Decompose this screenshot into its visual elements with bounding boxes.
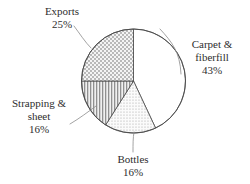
leader-line-bottles — [133, 132, 134, 152]
leader-line-strapping-sheet — [70, 106, 96, 124]
pie-slice-exports[interactable] — [82, 29, 134, 81]
label-strapping-sheet-title-2: sheet — [28, 110, 51, 122]
label-strapping-sheet-title-1: Strapping & — [12, 97, 67, 109]
label-exports-title: Exports — [45, 5, 79, 17]
leader-line-exports — [74, 26, 91, 48]
label-strapping-sheet-value: 16% — [29, 123, 49, 135]
label-carpet-fiberfill-title-1: Carpet & — [192, 38, 233, 50]
label-carpet-fiberfill-value: 43% — [202, 64, 222, 76]
label-bottles-title: Bottles — [117, 153, 148, 165]
pie-chart-svg: Exports 25% Carpet & fiberfill 43% Strap… — [0, 0, 250, 184]
label-exports-value: 25% — [52, 18, 72, 30]
pie-chart-figure: Exports 25% Carpet & fiberfill 43% Strap… — [0, 0, 250, 184]
label-bottles-value: 16% — [123, 166, 143, 178]
label-carpet-fiberfill-title-2: fiberfill — [195, 51, 229, 63]
